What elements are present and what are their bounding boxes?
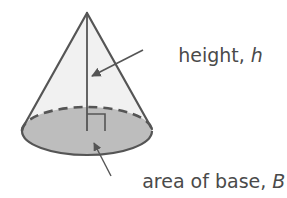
cone-diagram: height, h area of base, B <box>0 0 287 198</box>
height-label: height, h <box>148 44 281 66</box>
height-variable: h <box>251 44 263 66</box>
height-label-text: height, <box>178 44 251 66</box>
base-label: area of base, B <box>112 170 287 192</box>
base-label-text: area of base, <box>142 170 272 192</box>
base-variable: B <box>272 170 285 192</box>
